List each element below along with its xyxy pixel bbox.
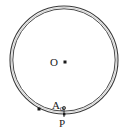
point-label-p: P [59,118,65,129]
hoop-midline [11,7,116,112]
hoop-outer-circle [10,6,118,114]
circle-diagram-svg [0,0,128,133]
center-point-dot [64,61,67,64]
center-label-o: O [50,57,58,68]
point-label-a0: A0 [52,100,63,113]
hoop-inner-circle [13,9,115,111]
arc-point-dot [38,108,41,111]
point-label-a-letter: A [52,99,60,111]
p-point-dot [63,113,65,115]
point-label-a-subscript: 0 [60,105,64,113]
figure-canvas: O A0 P [0,0,128,133]
